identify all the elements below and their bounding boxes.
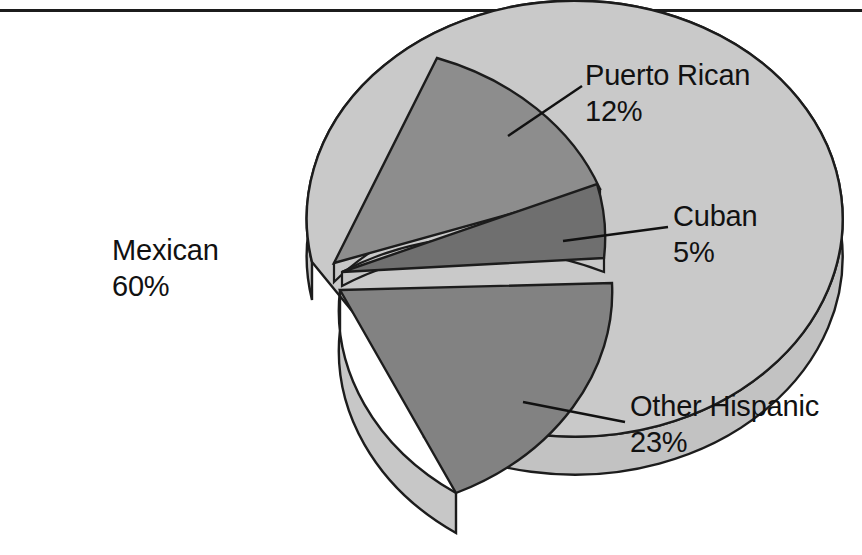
slice-label-cuban-name: Cuban (673, 200, 757, 232)
slice-label-other-hispanic: Other Hispanic 23% (630, 388, 819, 460)
slice-label-puerto-rican: Puerto Rican 12% (585, 57, 750, 129)
slice-label-puerto-rican-value: 12% (585, 93, 750, 129)
slice-label-mexican: Mexican 60% (112, 232, 219, 304)
pie-slice-other-hispanic[interactable] (339, 283, 612, 533)
slice-label-other-hispanic-value: 23% (630, 424, 819, 460)
slice-label-mexican-name: Mexican (112, 234, 219, 266)
slice-label-cuban-value: 5% (673, 234, 757, 270)
slice-label-puerto-rican-name: Puerto Rican (585, 59, 750, 91)
slice-label-mexican-value: 60% (112, 268, 219, 304)
chart-page: Mexican 60% Puerto Rican 12% Cuban 5% Ot… (0, 0, 862, 555)
slice-label-cuban: Cuban 5% (673, 198, 757, 270)
slice-label-other-hispanic-name: Other Hispanic (630, 390, 819, 422)
